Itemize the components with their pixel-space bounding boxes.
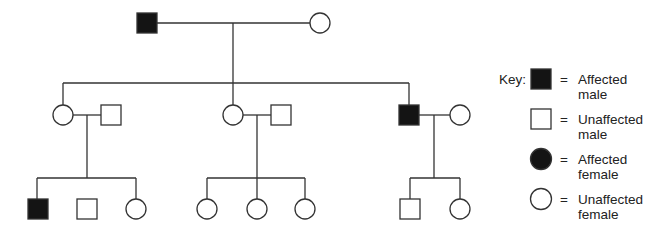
key-affected-male-icon: [531, 69, 551, 89]
unaffected-female-I-2: [310, 13, 330, 33]
unaffected-male-II-1s: [101, 105, 121, 125]
unaffected-female-III-3: [126, 199, 146, 219]
unaffected-male-II-2s: [271, 105, 291, 125]
affected-male-II-3: [399, 105, 419, 125]
key-unaffected-male-icon: [531, 109, 551, 129]
key-label: Affectedfemale: [578, 152, 627, 182]
unaffected-female-II-1: [53, 105, 73, 125]
unaffected-male-III-7: [400, 199, 420, 219]
unaffected-female-III-8: [450, 199, 470, 219]
affected-male-I-1: [137, 13, 157, 33]
unaffected-female-II-2: [223, 105, 243, 125]
key-title: Key:: [499, 72, 526, 87]
unaffected-female-II-3s: [450, 105, 470, 125]
unaffected-male-III-2: [77, 199, 97, 219]
unaffected-female-III-5: [247, 199, 267, 219]
unaffected-female-III-4: [197, 199, 217, 219]
equals-sign: =: [560, 152, 568, 167]
affected-male-III-1: [28, 199, 48, 219]
key-label: Unaffectedfemale: [578, 192, 643, 222]
key-affected-female-icon: [531, 149, 552, 170]
key-label: Unaffectedmale: [578, 112, 643, 142]
unaffected-female-III-6: [295, 199, 315, 219]
equals-sign: =: [560, 72, 568, 87]
equals-sign: =: [560, 192, 568, 207]
key-unaffected-female-icon: [531, 189, 552, 210]
key-label: Affectedmale: [578, 72, 627, 102]
equals-sign: =: [560, 112, 568, 127]
